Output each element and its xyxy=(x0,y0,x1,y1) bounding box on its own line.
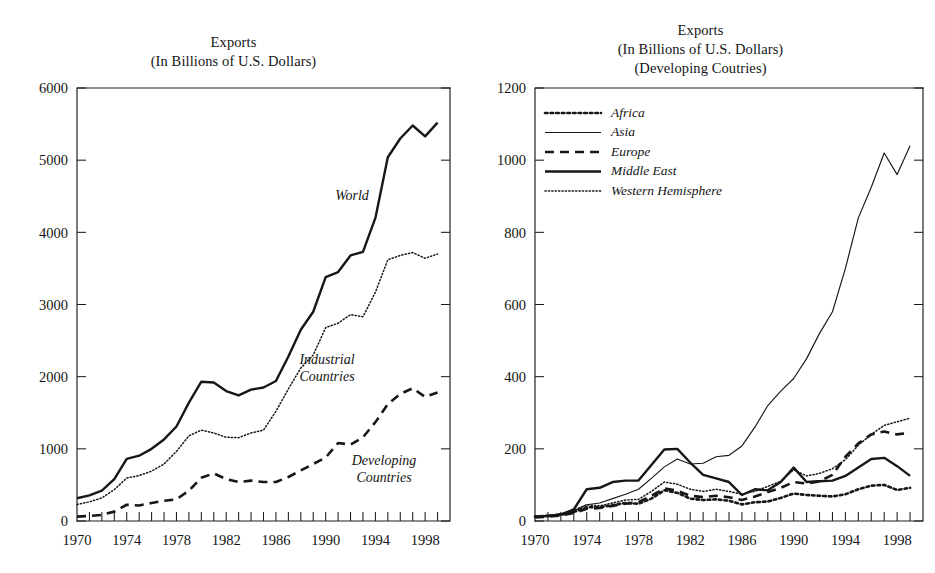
legend-item: Europe xyxy=(545,144,650,159)
x-tick-label: 1990 xyxy=(779,532,808,548)
y-tick-label: 0 xyxy=(61,513,68,529)
x-tick-label: 1982 xyxy=(676,532,705,548)
chart-plot-left: 0100020003000400050006000 19701974197819… xyxy=(0,0,467,573)
y-tick-label: 3000 xyxy=(39,297,68,313)
series-line-asia xyxy=(535,146,910,517)
series-annotation-developing-line2: Countries xyxy=(356,470,412,485)
legend-label: Western Hemisphere xyxy=(611,183,722,198)
y-tick-label: 4000 xyxy=(39,225,68,241)
y-tick-label: 1000 xyxy=(39,441,68,457)
legend-item: Africa xyxy=(545,105,645,120)
series-annotation-developing-line1: Developing xyxy=(351,453,417,468)
x-tick-label: 1998 xyxy=(883,532,912,548)
chart-panel-world: Exports (In Billions of U.S. Dollars) 01… xyxy=(0,0,467,573)
series-line-world xyxy=(77,123,438,499)
y-tick-label: 1200 xyxy=(497,80,526,96)
y-tick-label: 600 xyxy=(504,297,526,313)
y-tick-labels-right: 020040060080010001200 xyxy=(497,80,526,529)
legend-label: Europe xyxy=(610,144,650,159)
series-group-right xyxy=(535,146,910,518)
y-tick-label: 2000 xyxy=(39,369,68,385)
exports-figure: Exports (In Billions of U.S. Dollars) 01… xyxy=(0,0,935,573)
x-tick-label: 1974 xyxy=(572,532,602,548)
y-tick-label: 1000 xyxy=(497,152,526,168)
chart-panel-developing: Exports (In Billions of U.S. Dollars) (D… xyxy=(467,0,934,573)
chart-legend: AfricaAsiaEuropeMiddle EastWestern Hemis… xyxy=(545,105,722,198)
legend-label: Asia xyxy=(610,124,635,139)
x-tick-label: 1998 xyxy=(411,532,440,548)
legend-item: Western Hemisphere xyxy=(545,183,722,198)
x-tick-labels-right: 19701974197819821986199019941998 xyxy=(521,532,912,548)
y-tick-label: 6000 xyxy=(39,80,68,96)
y-tick-label: 200 xyxy=(504,441,526,457)
y-tick-label: 0 xyxy=(519,513,526,529)
x-tick-label: 1970 xyxy=(63,532,92,548)
legend-item: Middle East xyxy=(545,163,678,178)
x-tick-label: 1994 xyxy=(361,532,391,548)
y-tick-label: 800 xyxy=(504,225,526,241)
x-tick-label: 1978 xyxy=(624,532,653,548)
x-tick-labels-left: 19701974197819821986199019941998 xyxy=(63,532,440,548)
series-line-western-hemisphere xyxy=(535,418,910,516)
x-tick-label: 1982 xyxy=(212,532,241,548)
x-tick-label: 1974 xyxy=(112,532,142,548)
legend-label: Africa xyxy=(610,105,645,120)
x-ticks-left xyxy=(89,512,437,521)
x-tick-label: 1978 xyxy=(162,532,191,548)
y-tick-label: 5000 xyxy=(39,152,68,168)
legend-item: Asia xyxy=(545,124,635,139)
x-tick-label: 1986 xyxy=(727,532,756,548)
x-tick-label: 1970 xyxy=(521,532,550,548)
chart-plot-right: 020040060080010001200 197019741978198219… xyxy=(467,0,934,573)
x-tick-label: 1986 xyxy=(261,532,290,548)
series-annotation-industrial-line1: Industrial xyxy=(298,352,354,367)
y-tick-labels-left: 0100020003000400050006000 xyxy=(39,80,68,529)
x-tick-label: 1990 xyxy=(311,532,340,548)
series-annotation-world: World xyxy=(335,188,370,203)
legend-label: Middle East xyxy=(610,163,678,178)
x-tick-label: 1994 xyxy=(831,532,861,548)
series-annotation-industrial-line2: Countries xyxy=(299,369,355,384)
y-tick-label: 400 xyxy=(504,369,526,385)
x-ticks-right xyxy=(548,512,910,521)
